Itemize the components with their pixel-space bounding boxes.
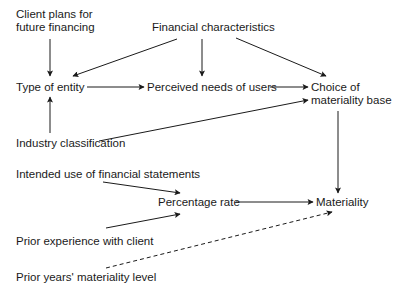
node-type-of-entity: Type of entity [16,81,84,94]
node-choice-materiality-base: Choice of materiality base [311,81,392,107]
node-percentage-rate: Percentage rate [158,196,240,209]
node-type-of-entity-label: Type of entity [16,81,84,94]
node-client-plans-line1: Client plans for [16,8,95,21]
edge-prior-experience-to-percentage-rate [106,214,180,228]
node-perceived-needs-label: Perceived needs of users [147,81,277,94]
node-prior-experience: Prior experience with client [16,235,153,248]
node-materiality-label: Materiality [316,196,368,209]
node-client-plans-line2: future financing [16,21,95,34]
node-percentage-rate-label: Percentage rate [158,196,240,209]
node-materiality: Materiality [316,196,368,209]
node-client-plans: Client plans for future financing [16,8,95,34]
edge-intended-use-to-percentage-rate [103,182,180,193]
node-choice-line1: Choice of [311,81,392,94]
node-prior-years-materiality-label: Prior years' materiality level [16,271,156,284]
node-intended-use: Intended use of financial statements [16,168,200,181]
node-choice-line2: materiality base [311,94,392,107]
node-industry-classification: Industry classification [16,137,125,150]
edge-industry-to-choice [99,100,308,141]
node-financial-characteristics: Financial characteristics [152,21,275,34]
node-perceived-needs: Perceived needs of users [147,81,277,94]
node-prior-experience-label: Prior experience with client [16,235,153,248]
edge-financial-to-type-of-entity [73,39,177,76]
node-industry-classification-label: Industry classification [16,137,125,150]
node-prior-years-materiality: Prior years' materiality level [16,271,156,284]
node-intended-use-label: Intended use of financial statements [16,168,200,181]
node-financial-characteristics-label: Financial characteristics [152,21,275,34]
edge-financial-to-choice [236,38,326,76]
